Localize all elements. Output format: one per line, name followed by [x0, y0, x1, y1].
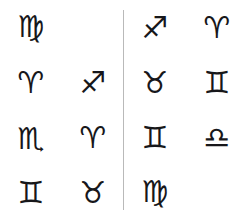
aries-symbol: ♈	[80, 123, 107, 153]
symbol-cell-l-r1c2	[62, 0, 124, 55]
gemini-symbol: ♊	[204, 68, 231, 98]
zodiac-symbol-board: ♍ ♈ ♐ ♏ ♈ ♊ ♉	[0, 0, 248, 220]
left-panel: ♍ ♈ ♐ ♏ ♈ ♊ ♉	[0, 0, 124, 220]
symbol-cell-r-r2c2[interactable]: ♊	[186, 55, 248, 110]
aries-symbol: ♈	[18, 68, 45, 98]
symbol-cell-r-r4c1[interactable]: ♍	[124, 165, 186, 220]
symbol-cell-l-r1c1[interactable]: ♍	[0, 0, 62, 55]
left-panel-grid: ♍ ♈ ♐ ♏ ♈ ♊ ♉	[0, 0, 124, 220]
libra-symbol: ♎	[204, 123, 231, 153]
symbol-cell-r-r3c1[interactable]: ♊	[124, 110, 186, 165]
symbol-cell-r-r1c2[interactable]: ♈	[186, 0, 248, 55]
sagittarius-symbol: ♐	[80, 68, 107, 98]
sagittarius-symbol: ♐	[142, 13, 169, 43]
right-panel: ♐ ♈ ♉ ♊ ♊ ♎ ♍	[124, 0, 248, 220]
gemini-symbol: ♊	[18, 178, 45, 208]
gemini-symbol: ♊	[142, 123, 169, 153]
aries-symbol: ♈	[204, 13, 231, 43]
symbol-cell-r-r3c2[interactable]: ♎	[186, 110, 248, 165]
taurus-symbol: ♉	[142, 68, 169, 98]
scorpio-symbol: ♏	[18, 124, 45, 154]
symbol-cell-l-r4c1[interactable]: ♊	[0, 165, 62, 220]
symbol-cell-r-r2c1[interactable]: ♉	[124, 55, 186, 110]
taurus-symbol: ♉	[80, 178, 107, 208]
virgo-symbol: ♍	[18, 12, 45, 42]
symbol-cell-l-r2c1[interactable]: ♈	[0, 55, 62, 110]
symbol-cell-r-r1c1[interactable]: ♐	[124, 0, 186, 55]
right-panel-grid: ♐ ♈ ♉ ♊ ♊ ♎ ♍	[124, 0, 248, 220]
symbol-cell-l-r3c1[interactable]: ♏	[0, 110, 62, 165]
symbol-cell-l-r2c2[interactable]: ♐	[62, 55, 124, 110]
symbol-cell-r-r4c2	[186, 165, 248, 220]
symbol-cell-l-r4c2[interactable]: ♉	[62, 165, 124, 220]
virgo-symbol: ♍	[142, 177, 169, 207]
symbol-cell-l-r3c2[interactable]: ♈	[62, 110, 124, 165]
